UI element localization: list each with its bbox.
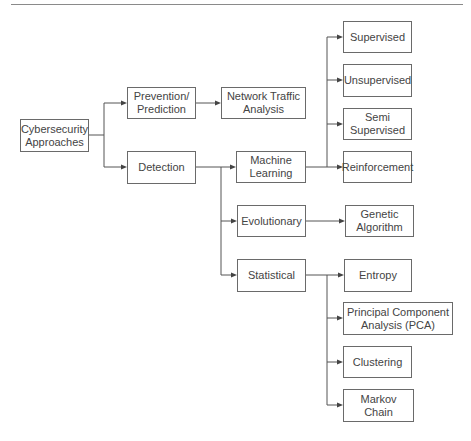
node-statistical: Statistical: [237, 259, 306, 292]
node-detection: Detection: [127, 151, 196, 184]
node-evolutionary: Evolutionary: [237, 205, 306, 237]
node-network-traffic-analysis: Network Traffic Analysis: [221, 87, 306, 119]
node-entropy: Entropy: [344, 259, 412, 292]
node-machine-learning: Machine Learning: [236, 151, 306, 183]
node-markov-chain: Markov Chain: [343, 389, 414, 422]
node-clustering: Clustering: [343, 346, 412, 378]
node-cybersecurity-approaches: Cybersecurity Approaches: [20, 119, 89, 152]
node-pca: Principal Component Analysis (PCA): [343, 302, 453, 335]
node-semi-supervised: Semi Supervised: [343, 108, 412, 140]
node-genetic-algorithm: Genetic Algorithm: [345, 205, 414, 237]
node-reinforcement: Reinforcement: [343, 151, 412, 183]
node-prevention-prediction: Prevention/ Prediction: [127, 87, 196, 119]
node-unsupervised: Unsupervised: [343, 64, 412, 97]
node-supervised: Supervised: [343, 21, 412, 53]
